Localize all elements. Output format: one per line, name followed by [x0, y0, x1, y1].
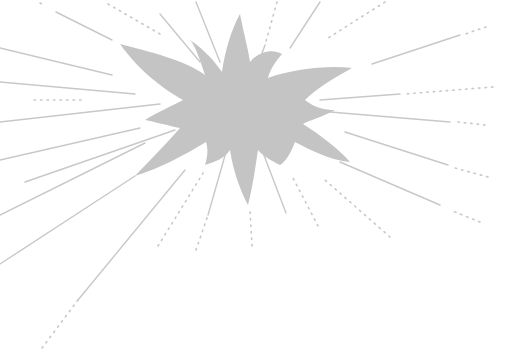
starburst-illustration: [0, 0, 524, 359]
starburst-svg: [0, 0, 524, 359]
